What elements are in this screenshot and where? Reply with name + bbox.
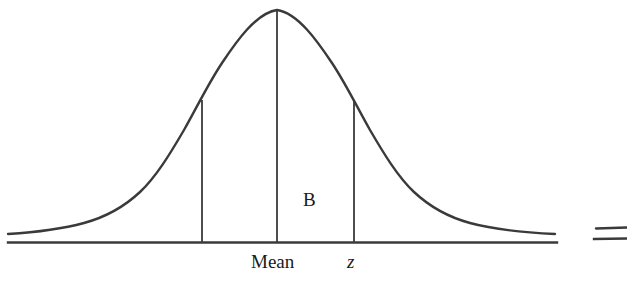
- mean-axis-label: Mean: [251, 252, 294, 271]
- next-figure-edge: [594, 228, 627, 240]
- next-figure-baseline: [594, 239, 627, 240]
- bell-curve-path: [8, 10, 555, 234]
- normal-distribution-figure: B Mean z: [0, 0, 627, 283]
- bell-curve-diagram: [0, 0, 627, 283]
- z-axis-label: z: [347, 252, 354, 271]
- next-figure-curve-tail: [596, 228, 627, 229]
- region-b-label: B: [303, 190, 316, 209]
